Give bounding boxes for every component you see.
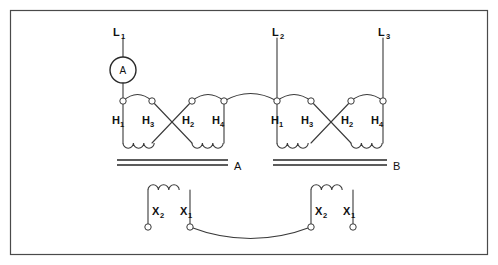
label-core-b: B xyxy=(393,160,400,172)
schematic-canvas: L 1 L 2 L 3 A H 1 H 3 H 2 H 4 H 1 H 3 H … xyxy=(0,0,498,265)
terminal-a-x1 xyxy=(187,224,193,230)
terminal-b-h2 xyxy=(348,98,354,104)
label-b-h1: H xyxy=(271,114,279,126)
label-l2-subscript: 2 xyxy=(280,32,284,41)
terminal-a-h3 xyxy=(149,98,155,104)
label-b-h2-subscript: 2 xyxy=(349,120,353,129)
label-a-x1-subscript: 1 xyxy=(188,211,192,220)
transformer-b-primary-left-coil xyxy=(277,143,308,148)
label-l3-subscript: 3 xyxy=(386,32,390,41)
transformer-b-primary-right-coil xyxy=(351,143,382,148)
transformer-a-h2-h4-jumper xyxy=(192,95,224,102)
label-a-h2: H xyxy=(182,114,190,126)
label-l1: L xyxy=(113,26,120,38)
transformer-a-h1-h3-jumper xyxy=(123,95,152,102)
transformer-b-h2-h4-jumper xyxy=(351,95,383,102)
label-b-h3: H xyxy=(301,114,309,126)
label-b-x2-subscript: 2 xyxy=(323,211,327,220)
terminal-a-x2 xyxy=(145,224,151,230)
terminal-a-h2 xyxy=(189,98,195,104)
terminal-b-h1 xyxy=(274,98,280,104)
terminal-b-h4 xyxy=(380,98,386,104)
label-a-h2-subscript: 2 xyxy=(190,120,194,129)
label-b-x2: X xyxy=(315,205,323,217)
transformer-a-primary-right-coil xyxy=(192,143,223,148)
label-a-x2-subscript: 2 xyxy=(160,211,164,220)
label-b-x1-subscript: 1 xyxy=(351,211,355,220)
terminal-b-x2 xyxy=(308,224,314,230)
terminal-b-x1 xyxy=(350,224,356,230)
transformer-b-h1-h3-jumper xyxy=(277,95,311,102)
terminal-a-h1 xyxy=(120,98,126,104)
label-ammeter: A xyxy=(120,65,127,76)
label-core-a: A xyxy=(234,160,242,172)
label-a-x2: X xyxy=(152,205,160,217)
label-a-h3: H xyxy=(142,114,150,126)
label-a-h3-subscript: 3 xyxy=(150,120,154,129)
transformer-a-primary-left-coil xyxy=(123,143,154,148)
label-b-x1: X xyxy=(343,205,351,217)
label-l1-subscript: 1 xyxy=(121,32,125,41)
label-a-h1-subscript: 1 xyxy=(120,120,124,129)
label-l2: L xyxy=(272,26,279,38)
label-b-h4: H xyxy=(371,114,379,126)
label-a-h1: H xyxy=(112,114,120,126)
secondary-interconnect-arc xyxy=(190,227,311,239)
interphase-tie-arc-a-h4-to-b-h1 xyxy=(224,94,277,102)
transformer-a-secondary-coil xyxy=(148,185,179,190)
label-b-h3-subscript: 3 xyxy=(309,120,313,129)
terminal-b-h3 xyxy=(308,98,314,104)
transformer-b-secondary-coil xyxy=(311,185,342,190)
label-a-x1: X xyxy=(180,205,188,217)
label-b-h2: H xyxy=(341,114,349,126)
label-l3: L xyxy=(378,26,385,38)
terminal-a-h4 xyxy=(221,98,227,104)
label-a-h4: H xyxy=(212,114,220,126)
transformer-diagram: L 1 L 2 L 3 A H 1 H 3 H 2 H 4 H 1 H 3 H … xyxy=(0,0,498,265)
diagram-frame xyxy=(11,11,488,255)
label-b-h1-subscript: 1 xyxy=(279,120,283,129)
